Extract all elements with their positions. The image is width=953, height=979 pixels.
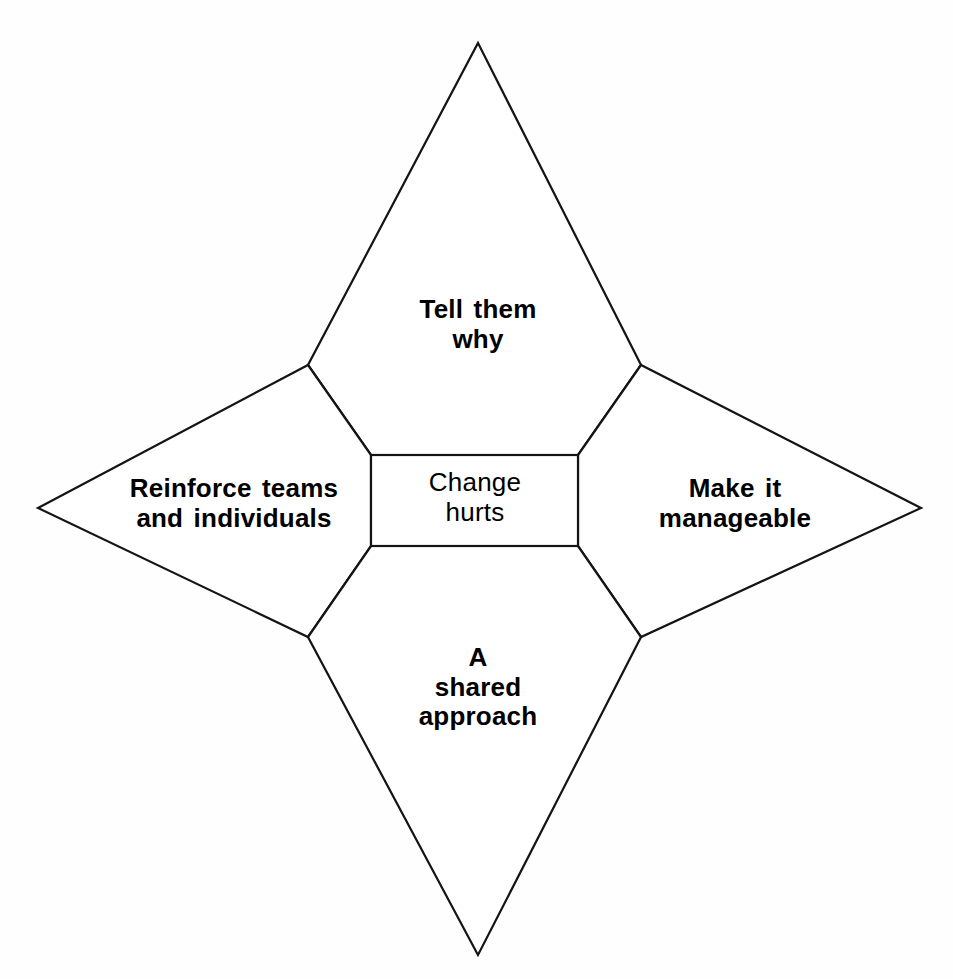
label-make-it-manageable: Make it manageable	[600, 474, 870, 533]
label-change-hurts: Change hurts	[371, 468, 579, 527]
petal-south	[308, 546, 641, 955]
petal-north	[308, 43, 641, 455]
label-a-shared-approach: A shared approach	[350, 643, 606, 732]
label-reinforce-teams-and-individuals: Reinforce teams and individuals	[90, 474, 378, 533]
star-diagram: Tell them why Reinforce teams and indivi…	[0, 0, 953, 979]
label-tell-them-why: Tell them why	[330, 295, 626, 354]
